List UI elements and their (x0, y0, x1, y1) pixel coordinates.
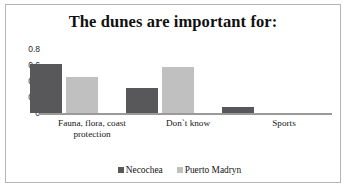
chart-title: The dunes are important for: (6, 12, 340, 32)
bar-necochea (126, 88, 158, 113)
legend-label: Necochea (126, 165, 163, 175)
bar-necochea (30, 64, 62, 113)
chart-frame: The dunes are important for: 0.80.60.40.… (5, 4, 341, 183)
legend-swatch-icon (177, 167, 183, 173)
chart-legend: NecocheaPuerto Madryn (6, 165, 347, 175)
bar-necochea (222, 107, 254, 113)
plot-area: 0.80.60.40.20 (44, 49, 332, 114)
x-axis-category-label-line: Fauna, flora, coast (44, 118, 140, 129)
legend-item[interactable]: Necochea (118, 165, 163, 175)
x-axis-category-label: Fauna, flora, coastprotection (44, 118, 140, 140)
bar-puerto-madryn (66, 77, 98, 113)
y-axis-tick-label: 0.8 (28, 44, 40, 54)
legend-swatch-icon (118, 167, 124, 173)
x-axis-line (40, 113, 332, 115)
x-axis-category-label: Don`t know (140, 118, 236, 129)
legend-item[interactable]: Puerto Madryn (177, 165, 242, 175)
x-axis-category-label-line: Don`t know (140, 118, 236, 129)
x-axis-category-labels: Fauna, flora, coastprotectionDon`t knowS… (44, 118, 336, 150)
x-axis-category-label-line: Sports (236, 118, 332, 129)
bar-puerto-madryn (162, 67, 194, 113)
x-axis-category-label-line: protection (44, 129, 140, 140)
legend-label: Puerto Madryn (185, 165, 242, 175)
x-axis-category-label: Sports (236, 118, 332, 129)
